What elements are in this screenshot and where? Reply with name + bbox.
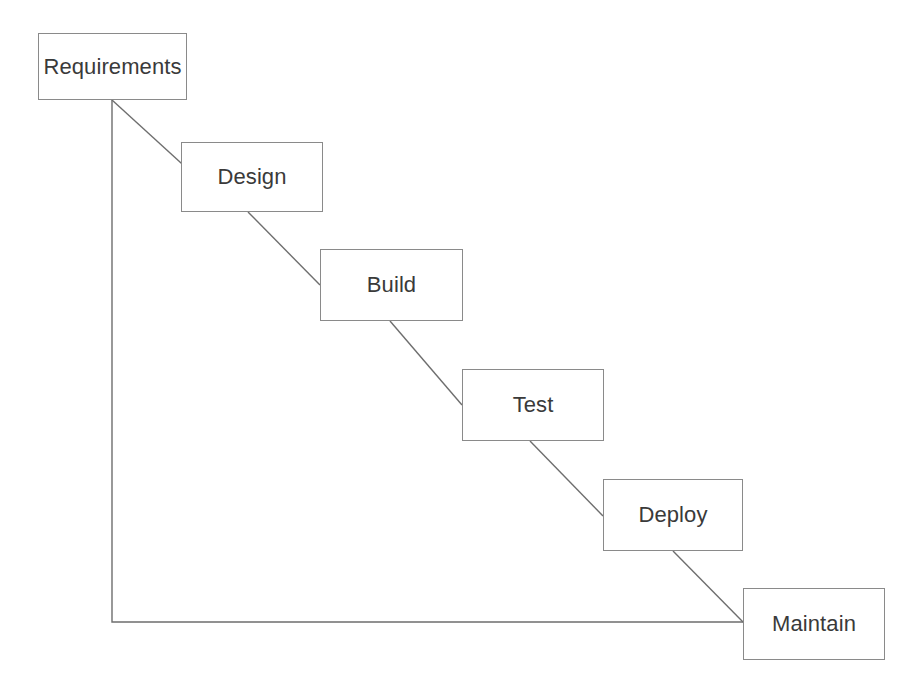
phase-box-test[interactable]: Test [462, 369, 604, 441]
phase-box-requirements[interactable]: Requirements [38, 33, 187, 100]
connector-deploy-to-maintain [673, 551, 743, 622]
phase-box-design[interactable]: Design [181, 142, 323, 212]
phase-label-requirements: Requirements [43, 56, 181, 78]
phase-label-maintain: Maintain [772, 613, 856, 635]
phase-label-test: Test [513, 394, 554, 416]
connector-requirements-to-design [112, 100, 192, 173]
connector-design-to-build [248, 212, 320, 285]
waterfall-diagram-canvas: Requirements Design Build Test Deploy Ma… [0, 0, 923, 695]
phase-label-deploy: Deploy [638, 504, 707, 526]
phase-box-maintain[interactable]: Maintain [743, 588, 885, 660]
phase-box-deploy[interactable]: Deploy [603, 479, 743, 551]
phase-box-build[interactable]: Build [320, 249, 463, 321]
connector-test-to-deploy [530, 441, 603, 516]
connector-build-to-test [390, 321, 462, 405]
phase-label-design: Design [217, 166, 286, 188]
phase-label-build: Build [367, 274, 416, 296]
